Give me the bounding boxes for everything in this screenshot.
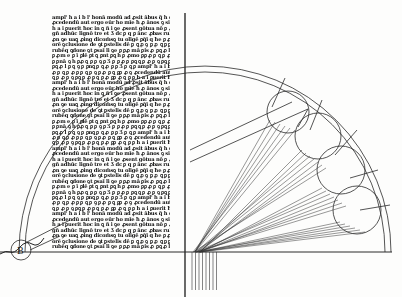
circle-3 (317, 146, 365, 194)
outer-arc (19, 66, 391, 252)
baseline-drop-lines (192, 252, 217, 290)
circle-4 (333, 186, 381, 234)
parallel-ray-2 (190, 117, 290, 162)
geometric-diagram: B (0, 0, 402, 297)
ray-fan (193, 120, 365, 252)
inner-arc (25, 72, 385, 252)
manuscript-page: ampl' h a i b l' bonā modū ad ꝓsit ābus … (0, 0, 402, 297)
small-circle-label: B (17, 246, 24, 256)
parallel-ray-1 (190, 102, 292, 150)
circle-1 (267, 91, 309, 133)
